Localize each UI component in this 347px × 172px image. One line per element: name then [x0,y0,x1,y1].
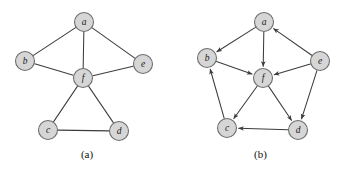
node-label-e: e [318,56,322,66]
graph-node-a[interactable]: a [75,13,94,32]
graph-edge-a-b [33,28,75,56]
graph-a-canvas: abefcd [0,0,174,146]
graph-edge-c-d [58,130,109,131]
graph-edge-a-f [83,32,84,68]
graph-edge-d-c [239,128,288,129]
graph-b-canvas: abefcd [174,0,347,146]
node-layer: abefcd [16,13,153,141]
node-label-e: e [141,59,145,69]
graph-panel-a: abefcd (a) [0,0,174,172]
node-layer: abefcd [198,13,330,140]
graph-edge-e-f [93,66,133,75]
graph-node-f[interactable]: f [74,69,93,88]
graph-edge-e-d [302,71,317,119]
node-label-b: b [23,56,28,66]
graph-node-c[interactable]: c [39,121,58,140]
graph-edge-e-f [274,64,310,75]
graph-panel-b: abefcd (b) [174,0,347,172]
graph-edge-a-b [217,27,256,51]
node-label-a: a [82,17,87,27]
graph-node-b[interactable]: b [198,49,217,68]
graph-edge-f-d [269,86,292,120]
graph-node-c[interactable]: c [218,119,237,138]
graph-edge-e-a [274,29,312,56]
caption-a: (a) [0,148,174,160]
node-label-b: b [205,53,210,63]
caption-b: (b) [174,148,347,160]
node-label-d: d [296,125,301,135]
figure-container: abefcd (a) abefcd (b) [0,0,347,172]
graph-node-f[interactable]: f [254,69,273,88]
graph-node-e[interactable]: e [134,55,153,74]
graph-edge-a-e [92,28,135,58]
graph-node-d[interactable]: d [110,122,129,141]
graph-edge-f-d [89,86,114,122]
graph-edge-f-c [54,86,78,121]
node-label-a: a [262,17,267,27]
graph-edge-f-c [234,86,257,118]
graph-edge-b-f [217,61,252,74]
graph-edge-c-b [210,69,224,118]
graph-node-b[interactable]: b [16,52,35,71]
graph-edge-a-f [263,32,264,66]
graph-node-a[interactable]: a [255,13,274,32]
graph-edge-b-f [35,64,74,75]
graph-node-e[interactable]: e [311,52,330,71]
graph-node-d[interactable]: d [289,121,308,140]
node-label-d: d [117,126,122,136]
